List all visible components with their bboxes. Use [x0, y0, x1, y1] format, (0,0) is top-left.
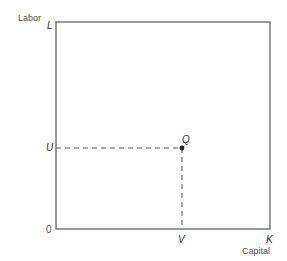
x-axis-title: Capital: [242, 246, 270, 256]
origin-label: 0: [46, 224, 52, 235]
q-label: Q: [182, 134, 190, 145]
y-axis-title: Labor: [18, 13, 41, 23]
x-right-label: K: [266, 234, 273, 245]
u-label: U: [46, 142, 53, 153]
box-frame: [56, 22, 270, 229]
y-top-label: L: [47, 20, 53, 31]
v-label: V: [178, 234, 185, 245]
edgeworth-box-diagram: [0, 0, 287, 261]
point-q: [180, 146, 185, 151]
